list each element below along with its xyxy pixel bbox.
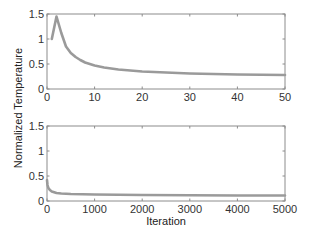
axes-box	[47, 14, 285, 89]
x-tick-label: 10	[88, 91, 100, 103]
top-subplot: 0102030405000.511.5	[29, 8, 291, 103]
y-tick-label: 0.5	[29, 58, 44, 70]
x-tick-label: 5000	[273, 203, 297, 215]
x-tick-label: 2000	[130, 203, 154, 215]
x-tick-label: 20	[136, 91, 148, 103]
y-tick-label: 0.5	[29, 170, 44, 182]
y-axis-label: Normalized Temperature	[12, 48, 24, 168]
y-tick-label: 1	[38, 33, 44, 45]
y-tick-label: 0	[38, 195, 44, 207]
x-tick-label: 1000	[82, 203, 106, 215]
x-tick-label: 40	[231, 91, 243, 103]
y-tick-label: 1.5	[29, 8, 44, 20]
bottom-subplot: 01000200030004000500000.511.5	[29, 120, 298, 215]
x-tick-label: 0	[44, 91, 50, 103]
data-line	[52, 17, 285, 76]
y-tick-label: 1.5	[29, 120, 44, 132]
axes-box	[47, 126, 285, 201]
y-tick-label: 1	[38, 145, 44, 157]
data-line	[47, 180, 285, 196]
figure: 0102030405000.511.5 01000200030004000500…	[0, 0, 311, 235]
x-tick-label: 4000	[225, 203, 249, 215]
y-tick-label: 0	[38, 83, 44, 95]
x-axis-label: Iteration	[146, 215, 186, 227]
x-tick-label: 0	[44, 203, 50, 215]
x-tick-label: 50	[279, 91, 291, 103]
x-tick-label: 30	[184, 91, 196, 103]
x-tick-label: 3000	[178, 203, 202, 215]
